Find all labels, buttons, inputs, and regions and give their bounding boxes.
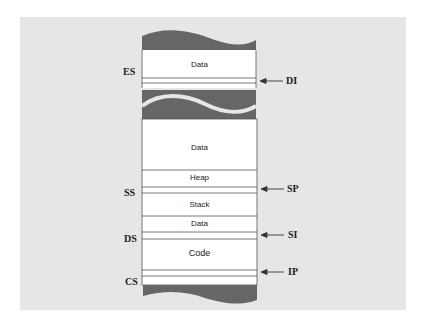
- register-cs: CS: [125, 276, 138, 287]
- middle-break: [142, 90, 256, 119]
- arrow-ip: [261, 270, 284, 275]
- register-di: DI: [286, 75, 297, 86]
- register-si: SI: [288, 229, 297, 240]
- top-break: [142, 30, 256, 50]
- segment-label-heap: Heap: [142, 173, 257, 182]
- arrow-sp: [261, 187, 284, 192]
- bottom-break: [143, 285, 257, 304]
- segment-label-ds-data: Data: [142, 219, 257, 228]
- segment-label-data: Data: [142, 143, 257, 152]
- segment-label-es-data: Data: [142, 60, 257, 69]
- arrow-di: [260, 79, 283, 84]
- segment-label-code: Code: [142, 248, 257, 258]
- register-ip: IP: [288, 266, 298, 277]
- register-sp: SP: [287, 183, 299, 194]
- register-es: ES: [123, 66, 135, 77]
- register-ss: SS: [124, 187, 135, 198]
- segment-label-stack: Stack: [142, 200, 257, 209]
- memory-column: [0, 0, 425, 323]
- arrow-si: [261, 233, 284, 238]
- register-ds: DS: [124, 233, 137, 244]
